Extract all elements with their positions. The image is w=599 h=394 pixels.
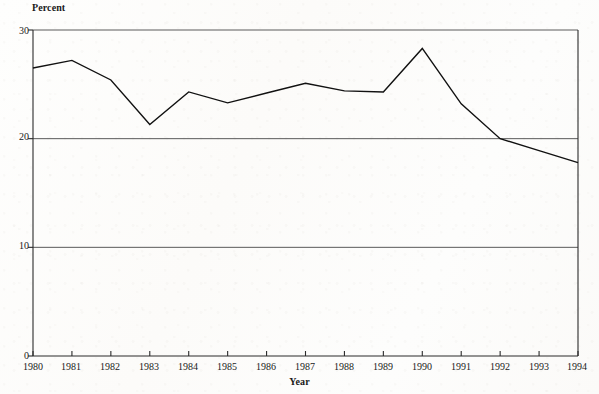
axis-frame [33,30,578,356]
gridline-group [33,30,578,247]
plot-area [0,0,599,394]
line-chart: Percent Year 30 20 10 0 1980 1981 1982 1… [0,0,599,394]
tick-mark-group [28,30,578,356]
data-series-line [33,48,578,162]
